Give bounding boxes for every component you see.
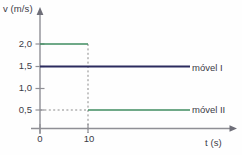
y-tick-label-1-0: 1,0 (4, 82, 32, 93)
y-axis-arrow-icon (37, 7, 44, 15)
legend-label-movel-2: móvel II (192, 104, 225, 115)
velocity-time-chart: v (m/s) t (s) 2,0 1,5 1,0 0,5 0 10 móvel… (0, 0, 242, 155)
y-tick-label-0-5: 0,5 (4, 104, 32, 115)
legend-label-movel-1: móvel I (192, 62, 223, 73)
y-axis-title: v (m/s) (3, 3, 33, 14)
chart-plot-area (0, 0, 242, 155)
y-tick-label-2-0: 2,0 (4, 38, 32, 49)
x-axis-arrow-icon (230, 125, 238, 131)
x-axis-title: t (s) (205, 137, 222, 148)
x-tick-label-0: 0 (30, 133, 50, 144)
y-tick-label-1-5: 1,5 (4, 60, 32, 71)
x-tick-label-10: 10 (79, 133, 99, 144)
